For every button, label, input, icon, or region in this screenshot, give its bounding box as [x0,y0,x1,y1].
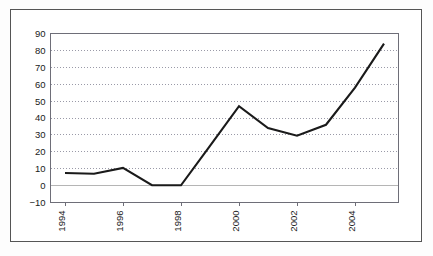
y-tick-label: −10 [29,197,45,208]
gridlines-group [51,50,399,168]
y-tick-label: 90 [35,28,46,39]
y-tick-label: 30 [35,129,46,140]
x-tick-label: 2000 [230,211,241,232]
x-tick-label: 2004 [346,211,357,232]
y-tick-label: 50 [35,96,46,107]
x-tick-label: 2002 [288,211,299,232]
data-line-series-1 [65,44,384,186]
y-tick-label: 0 [40,180,45,191]
y-tick-label: 60 [35,79,46,90]
y-tick-label: 80 [35,45,46,56]
y-tick-label: 10 [35,163,46,174]
y-tick-label: 20 [35,146,46,157]
y-axis-tick-labels: −100102030405060708090 [29,28,45,208]
chart-figure: −100102030405060708090 19941996199820002… [0,0,433,256]
y-tick-label: 40 [35,112,46,123]
x-tick-label: 1998 [172,211,183,232]
x-tick-label: 1994 [56,211,67,232]
y-tick-label: 70 [35,62,46,73]
x-tick-label: 1996 [114,211,125,232]
line-chart: −100102030405060708090 19941996199820002… [0,0,433,256]
x-axis-tick-labels: 199419961998200020022004 [56,203,357,232]
